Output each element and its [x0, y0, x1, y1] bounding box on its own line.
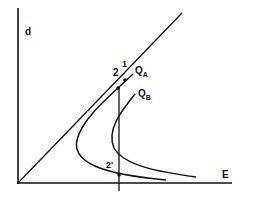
- point-2-label: 2: [113, 68, 119, 78]
- x-axis-label: E: [222, 170, 229, 180]
- curve-qa-name: Q: [135, 65, 143, 76]
- point-1-dot: [123, 78, 127, 82]
- point-2prime-label: 2': [106, 161, 113, 170]
- point-1-label: 1: [122, 60, 127, 69]
- curve-qb-name: Q: [138, 88, 146, 99]
- diagonal-line: [18, 13, 182, 183]
- curve-qa: [76, 74, 166, 180]
- curve-qa-label: QA: [135, 66, 148, 78]
- curve-qb: [112, 94, 196, 177]
- curve-qa-subscript: A: [143, 71, 148, 78]
- curve-qb-subscript: B: [146, 94, 151, 101]
- curve-qb-label: QB: [138, 89, 151, 101]
- point-2prime-dot: [117, 173, 121, 177]
- point-2-dot: [116, 86, 120, 90]
- y-axis-label: d: [25, 27, 31, 37]
